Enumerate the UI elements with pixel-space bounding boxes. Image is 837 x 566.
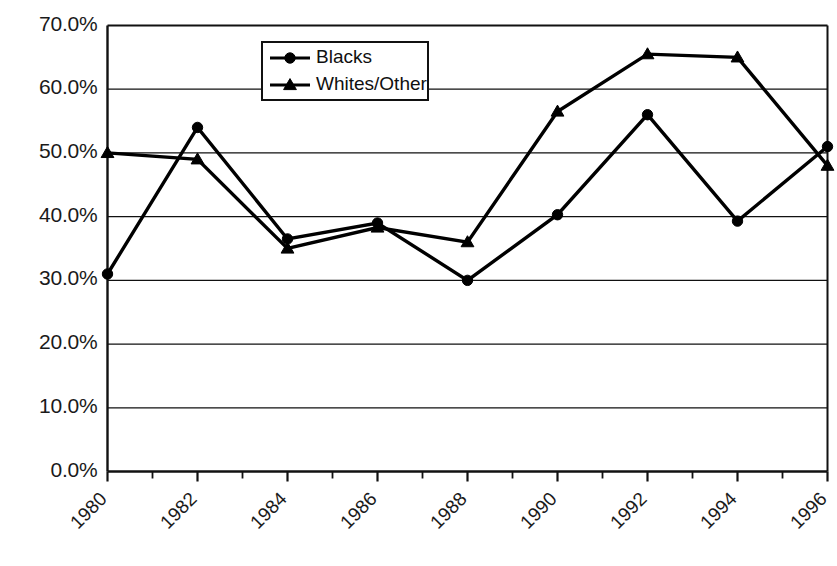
data-point-marker-circle [462, 275, 472, 285]
y-axis-tick-label: 0.0% [0, 458, 98, 482]
data-point-marker-circle [822, 141, 832, 151]
line-chart: 70.0%60.0%50.0%40.0%30.0%20.0%10.0%0.0% … [0, 0, 837, 566]
y-axis-tick-label: 60.0% [0, 75, 98, 99]
x-axis-ticks [108, 472, 828, 482]
legend-entry-label: Whites/Other [316, 73, 427, 95]
gridlines [108, 89, 828, 408]
legend-marker-circle-icon [285, 53, 295, 63]
data-point-marker-circle [642, 110, 652, 120]
data-point-marker-circle [732, 216, 742, 226]
y-axis-tick-label: 30.0% [0, 266, 98, 290]
data-point-marker-circle [192, 122, 202, 132]
plot-frame [108, 26, 828, 472]
series-whites-other [101, 48, 834, 253]
data-point-marker-circle [552, 210, 562, 220]
y-axis-tick-label: 40.0% [0, 203, 98, 227]
data-series-layer [101, 48, 834, 286]
y-axis-tick-label: 50.0% [0, 139, 98, 163]
series-line [108, 115, 828, 281]
y-axis-tick-label: 70.0% [0, 12, 98, 36]
series-blacks [102, 110, 832, 286]
data-point-marker-circle [102, 269, 112, 279]
legend-entry-label: Blacks [316, 46, 372, 68]
y-axis-tick-label: 20.0% [0, 330, 98, 354]
y-axis-tick-label: 10.0% [0, 394, 98, 418]
